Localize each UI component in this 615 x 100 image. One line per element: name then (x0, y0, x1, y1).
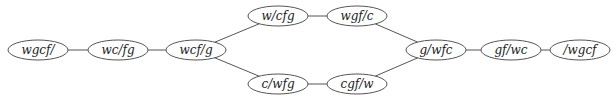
state-graph-diagram: wgcf/wc/fgwcf/gw/cfgwgf/cc/wfgcgf/wg/wfc… (0, 0, 615, 100)
node-label: wgcf/ (21, 43, 56, 57)
state-node: c/wfg (248, 74, 308, 94)
graph-svg: wgcf/wc/fgwcf/gw/cfgwgf/cc/wfgcgf/wg/wfc… (0, 0, 615, 100)
state-node: cgf/w (327, 74, 387, 94)
node-label: wcf/g (179, 43, 212, 57)
state-node: wcf/g (166, 40, 226, 60)
edge-n3-n6 (215, 58, 259, 76)
node-label: /wgcf (562, 43, 599, 57)
node-label: c/wfg (261, 77, 294, 91)
node-label: w/cfg (261, 9, 294, 23)
edge-n7-n8 (375, 58, 417, 76)
node-label: gf/wc (494, 43, 527, 57)
node-label: g/wfc (419, 43, 452, 57)
state-node: wc/fg (88, 40, 148, 60)
state-node: w/cfg (248, 6, 308, 26)
state-node: g/wfc (406, 40, 466, 60)
state-node: gf/wc (481, 40, 541, 60)
state-node: /wgcf (550, 40, 610, 60)
edge-n5-n8 (375, 24, 417, 42)
node-label: wc/fg (101, 43, 134, 57)
node-label: wgf/c (340, 9, 373, 23)
state-node: wgf/c (327, 6, 387, 26)
nodes-layer: wgcf/wc/fgwcf/gw/cfgwgf/cc/wfgcgf/wg/wfc… (8, 6, 610, 94)
edge-n3-n4 (215, 24, 259, 42)
state-node: wgcf/ (8, 40, 68, 60)
node-label: cgf/w (340, 77, 374, 91)
